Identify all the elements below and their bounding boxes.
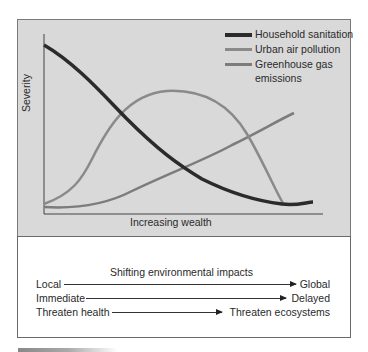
arrow-right-icon xyxy=(64,284,296,285)
footer-gradient-bar xyxy=(18,348,118,352)
legend-item-household-sanitation: Household sanitation xyxy=(225,27,368,41)
legend-label: Urban air pollution xyxy=(255,42,368,56)
series-urban-air-pollution xyxy=(44,91,283,204)
impact-from: Threaten health xyxy=(36,306,110,318)
impact-to: Threaten ecosystems xyxy=(230,306,330,318)
legend-item-greenhouse-gas-emissions: Greenhouse gas emissions xyxy=(225,57,368,85)
y-axis-label: Severity xyxy=(20,74,32,112)
impact-from: Local xyxy=(36,278,61,290)
series-greenhouse-gas-emissions xyxy=(44,113,294,207)
legend-swatch-icon xyxy=(225,33,252,37)
impact-to: Global xyxy=(300,278,330,290)
impact-from: Immediate xyxy=(36,292,85,304)
impact-row-health-ecosystems: Threaten health Threaten ecosystems xyxy=(36,306,330,320)
impact-to: Delayed xyxy=(291,292,330,304)
legend-label: Household sanitation xyxy=(255,27,368,41)
impacts-title: Shifting environmental impacts xyxy=(110,266,253,278)
legend-swatch-icon xyxy=(225,48,252,51)
chart-legend: Household sanitation Urban air pollution… xyxy=(225,27,368,86)
x-axis-label: Increasing wealth xyxy=(130,216,212,228)
legend-swatch-icon xyxy=(225,63,252,66)
impact-row-local-global: Local Global xyxy=(36,278,330,292)
legend-item-urban-air-pollution: Urban air pollution xyxy=(225,42,368,56)
arrow-right-icon xyxy=(86,298,286,299)
arrow-right-icon xyxy=(112,312,222,313)
impact-row-immediate-delayed: Immediate Delayed xyxy=(36,292,330,306)
legend-label: Greenhouse gas emissions xyxy=(255,57,345,85)
